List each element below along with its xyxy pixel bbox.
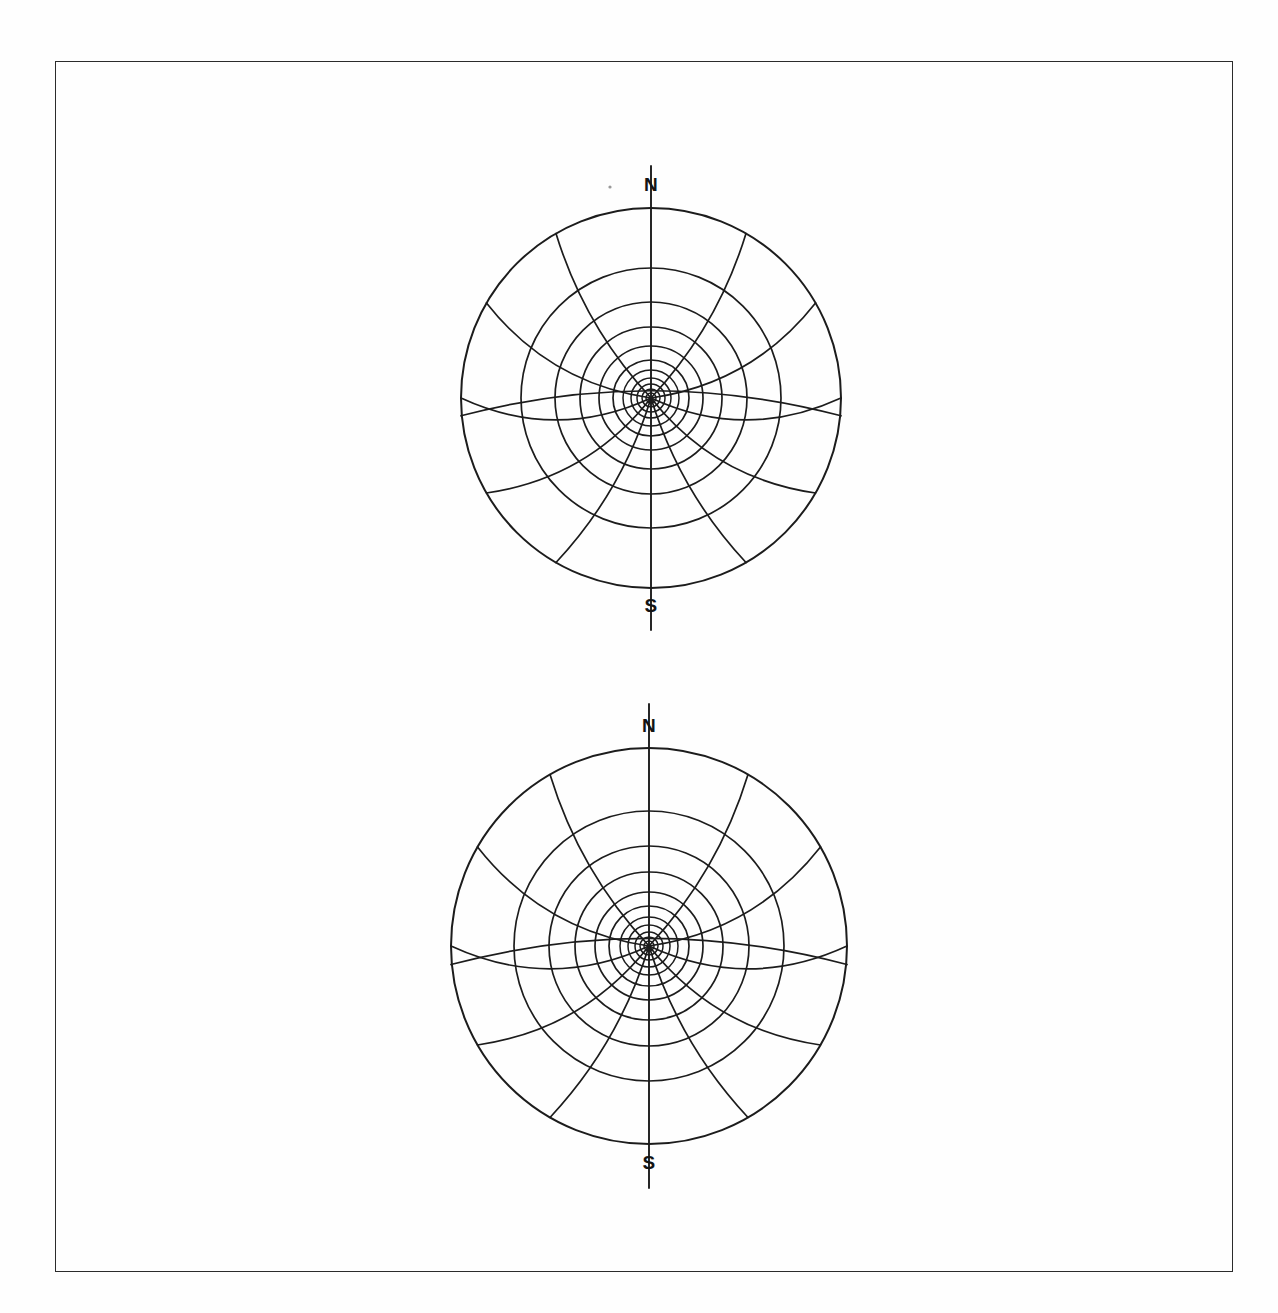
page-speck — [608, 185, 611, 188]
page-canvas: N S N S — [0, 0, 1278, 1313]
polar-grid-svg-top: N S — [440, 165, 870, 625]
polar-projection-diagram-bottom: N S — [432, 706, 878, 1178]
south-pole-label-top: S — [644, 595, 657, 616]
south-pole-label-bottom: S — [642, 1152, 655, 1173]
polar-grid-svg-bottom: N S — [432, 706, 878, 1178]
north-pole-label-bottom: N — [642, 715, 656, 736]
north-pole-label-top: N — [644, 174, 658, 195]
polar-projection-diagram-top: N S — [440, 165, 870, 625]
